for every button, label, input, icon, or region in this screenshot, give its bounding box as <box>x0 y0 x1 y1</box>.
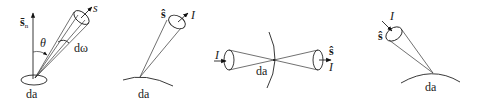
cone-edge <box>140 28 181 77</box>
area-label: da <box>26 87 38 101</box>
direction-label: s <box>93 1 98 15</box>
incoming-intensity-label: I <box>214 48 220 62</box>
panel-4: I ŝ da <box>378 9 460 94</box>
center-point <box>273 59 275 61</box>
cone-edge <box>389 40 433 73</box>
cone-edge <box>140 20 167 77</box>
surface-curve <box>123 77 173 86</box>
solid-angle-label: dω <box>74 41 88 55</box>
theta-label: θ <box>40 36 46 50</box>
intensity-arrow <box>178 13 188 22</box>
intensity-label: I <box>190 8 196 22</box>
panel-2: ŝ I da <box>123 7 196 101</box>
cone-cap-ellipse <box>383 24 405 44</box>
area-label: da <box>256 64 268 78</box>
cone-edge <box>274 60 318 70</box>
panel-3: I ŝ I da <box>214 32 334 88</box>
outgoing-intensity-label: I <box>328 60 334 74</box>
area-label: da <box>138 87 150 101</box>
cone-edge <box>402 30 433 73</box>
direction-label: ŝ <box>329 44 334 58</box>
intensity-label: I <box>389 9 395 23</box>
theta-arc <box>33 51 47 55</box>
surface-element-ellipse <box>21 75 47 85</box>
cone-cap-ellipse <box>166 12 188 31</box>
panel-1: s̄n s θ dω da <box>20 1 98 101</box>
radiation-geometry-diagram: s̄n s θ dω da ŝ I da I ŝ I <box>0 0 480 102</box>
normal-vector-label: s̄n <box>20 15 29 30</box>
cone-edge <box>274 50 318 60</box>
area-label: da <box>425 80 437 94</box>
direction-label: ŝ <box>161 7 166 21</box>
direction-label: ŝ <box>378 29 383 43</box>
cone-edge <box>229 50 274 60</box>
left-cone-cap-ellipse <box>224 50 234 70</box>
